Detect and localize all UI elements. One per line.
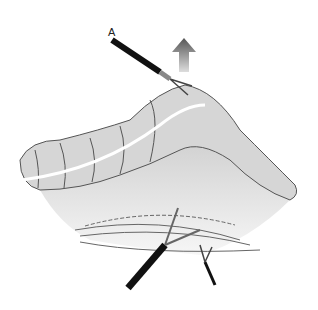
label-a: A	[108, 26, 115, 38]
illustration	[0, 0, 318, 310]
arrow-up-icon	[172, 38, 196, 72]
